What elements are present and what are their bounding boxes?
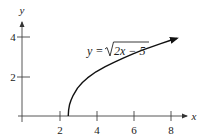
equation-label: y = 2x − 5 bbox=[86, 42, 149, 58]
y-ticks bbox=[17, 37, 30, 77]
x-tick-label-8: 8 bbox=[168, 124, 174, 136]
equation-lhs: y = bbox=[86, 44, 103, 58]
equation-radicand: 2x − 5 bbox=[114, 44, 145, 58]
function-graph: 2 4 6 8 2 4 x y y = 2x − 5 bbox=[0, 0, 207, 139]
x-tick-label-4: 4 bbox=[94, 124, 100, 136]
graph-canvas: 2 4 6 8 2 4 x y y = 2x − 5 bbox=[0, 0, 207, 139]
y-tick-label-2: 2 bbox=[10, 71, 16, 83]
x-tick-label-2: 2 bbox=[57, 124, 63, 136]
x-axis-label: x bbox=[191, 110, 197, 122]
y-axis-label: y bbox=[19, 4, 25, 16]
y-tick-label-4: 4 bbox=[10, 31, 16, 43]
x-tick-label-6: 6 bbox=[131, 124, 137, 136]
